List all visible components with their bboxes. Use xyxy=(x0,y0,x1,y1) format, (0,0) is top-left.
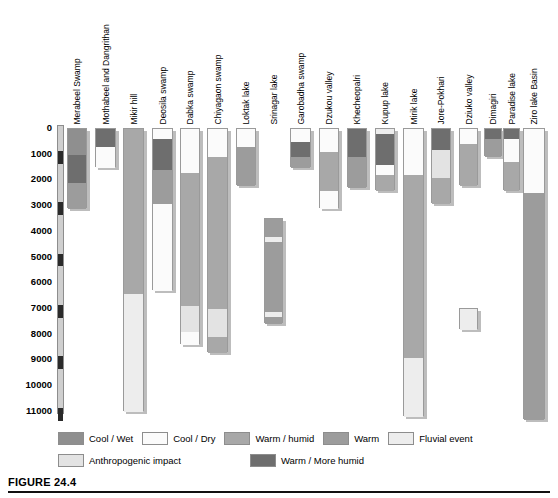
legend-label: Fluvial event xyxy=(419,434,472,444)
figure-caption: FIGURE 24.4 xyxy=(8,476,550,493)
bar-segment-cool-dry xyxy=(181,332,199,345)
legend-item: Warm / humid xyxy=(224,432,314,445)
legend-label: Warm / humid xyxy=(255,434,314,444)
bar-segment-cool-dry xyxy=(320,129,338,152)
bar-column[interactable] xyxy=(67,128,87,208)
y-tick-6000: 6000 xyxy=(31,277,52,287)
bar-column[interactable] xyxy=(207,128,228,352)
bar-segment-warm xyxy=(265,317,282,325)
bar-segment-cool-dry xyxy=(404,129,423,175)
bar-segment-warm-more-humid xyxy=(504,129,519,139)
bar-column[interactable] xyxy=(95,128,116,167)
bar-segment-warm-humid xyxy=(208,157,227,309)
bar-column[interactable] xyxy=(403,128,424,416)
bar-column[interactable] xyxy=(484,128,502,156)
bar-segment-cool-dry xyxy=(291,129,310,142)
bar-column[interactable] xyxy=(180,128,200,344)
legend-item: Anthropogenic impact xyxy=(58,454,181,467)
bar-segment-warm-more-humid xyxy=(291,142,310,157)
column-label: Dziuko valley xyxy=(464,74,473,124)
legend-label: Warm xyxy=(354,434,379,444)
y-tick-5000: 5000 xyxy=(31,252,52,262)
y-tick-11000: 11000 xyxy=(26,406,52,416)
bar-column[interactable] xyxy=(375,128,395,190)
bar-segment-fluvial-event xyxy=(124,294,143,412)
bar-segment-warm xyxy=(265,219,282,237)
y-tick-9000: 9000 xyxy=(31,354,52,364)
bar-segment-warm-more-humid xyxy=(432,129,450,150)
bar-segment-warm xyxy=(265,242,282,311)
legend-label: Cool / Wet xyxy=(89,434,133,444)
bar-segment-cool-dry xyxy=(320,191,338,209)
column-label: Merabeel Swamp xyxy=(73,58,82,124)
bar-segment-warm-humid xyxy=(460,144,477,185)
legend-swatch xyxy=(388,432,414,445)
y-tick-8000: 8000 xyxy=(31,329,52,339)
bar-column[interactable] xyxy=(236,128,256,185)
bar-column[interactable] xyxy=(431,128,451,203)
bar-segment-warm-humid xyxy=(376,175,394,190)
bar-column[interactable] xyxy=(319,128,339,208)
legend-swatch xyxy=(142,432,168,445)
legend-swatch xyxy=(250,454,276,467)
bar-segment-cool-dry xyxy=(376,165,394,175)
bar-segment-warm-humid xyxy=(404,175,423,358)
column-label: Dzukou valley xyxy=(325,71,334,124)
bar-segment-cool-dry xyxy=(96,147,115,168)
bar-column[interactable] xyxy=(123,128,144,411)
column-label: Chiyagaon swamp xyxy=(213,54,222,124)
bar-segment-warm xyxy=(68,183,86,209)
legend-swatch xyxy=(224,432,250,445)
column-label: Srinagar lake xyxy=(269,74,278,124)
y-tick-7000: 7000 xyxy=(31,303,52,313)
y-axis xyxy=(57,125,64,414)
y-tick-1000: 1000 xyxy=(31,149,52,159)
column-label: Mothabeel and Dangrithan xyxy=(101,24,110,124)
bar-column[interactable] xyxy=(152,128,173,290)
bar-segment-warm-more-humid xyxy=(153,139,172,170)
column-label: Deosila swamp xyxy=(158,66,167,124)
bar-segment-anthropogenic-impact xyxy=(432,150,450,178)
bar-segment-warm-humid xyxy=(208,337,227,352)
bar-column[interactable] xyxy=(459,308,478,329)
column-label: Jore-Pokhari xyxy=(437,76,446,124)
bar-segment-cool-dry xyxy=(460,129,477,144)
bar-segment-warm xyxy=(524,193,544,419)
column-label: Dabka swamp xyxy=(186,70,195,124)
legend-item: Fluvial event xyxy=(388,432,472,445)
y-axis-segment xyxy=(58,202,63,215)
y-axis-tick-labels: 0100020003000400050006000700080009000100… xyxy=(0,0,52,430)
column-label: Loktak lake xyxy=(242,81,251,124)
bar-segment-warm-more-humid xyxy=(376,134,394,165)
caption-divider xyxy=(8,491,550,493)
legend-row: Cool / WetCool / DryWarm / humidWarmFluv… xyxy=(58,432,482,445)
y-axis-segment xyxy=(58,254,63,267)
column-label: Dimagiri xyxy=(489,93,498,124)
column-label: Kupup lake xyxy=(381,81,390,124)
figure-caption-label: FIGURE 24.4 xyxy=(8,476,550,488)
legend-swatch xyxy=(58,454,84,467)
bar-segment-anthropogenic-impact xyxy=(208,309,227,337)
column-label: Garobadha swamp xyxy=(296,52,305,124)
bar-segment-anthropogenic-impact xyxy=(181,306,199,332)
bar-column[interactable] xyxy=(523,128,545,419)
legend-item: Warm / More humid xyxy=(250,454,364,467)
legend: Cool / WetCool / DryWarm / humidWarmFluv… xyxy=(58,432,528,476)
bar-segment-warm-humid xyxy=(432,178,450,204)
bar-column[interactable] xyxy=(264,218,283,323)
bar-segment-warm xyxy=(237,147,255,186)
y-axis-segment xyxy=(58,356,63,369)
column-label: Mikir hill xyxy=(129,93,138,124)
bar-column[interactable] xyxy=(459,128,478,185)
legend-swatch xyxy=(323,432,349,445)
bar-column[interactable] xyxy=(347,128,367,187)
legend-row: Anthropogenic impactWarm / More humid xyxy=(58,454,373,467)
bar-column[interactable] xyxy=(503,128,520,190)
y-tick-2000: 2000 xyxy=(31,174,52,184)
bar-segment-fluvial-event xyxy=(460,309,477,330)
y-axis-segment xyxy=(58,151,63,164)
bar-segment-warm-more-humid xyxy=(485,129,501,139)
bar-column[interactable] xyxy=(290,128,311,167)
bar-segment-warm-humid xyxy=(181,173,199,307)
bar-segment-warm-humid xyxy=(320,152,338,191)
